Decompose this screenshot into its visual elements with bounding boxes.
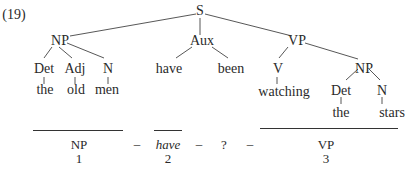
word-stars: stars xyxy=(379,106,405,120)
segment-vp-label: VP xyxy=(318,138,335,151)
separator-3: – xyxy=(247,137,254,150)
edge-np-adj xyxy=(59,47,72,58)
segment-vp-index: 3 xyxy=(323,152,330,165)
edge-np-det xyxy=(44,47,52,58)
bracket-line-np xyxy=(33,130,123,131)
edge-s-np xyxy=(70,14,196,36)
word-the-object: the xyxy=(332,106,349,120)
edge-vp-v xyxy=(279,47,288,58)
word-been: been xyxy=(218,62,244,76)
node-np-subject: NP xyxy=(51,34,69,48)
node-v: V xyxy=(273,62,283,76)
node-adj: Adj xyxy=(65,62,86,76)
node-s: S xyxy=(196,4,204,18)
node-np-object: NP xyxy=(355,62,373,76)
bracket-line-vp xyxy=(260,128,398,129)
node-n: N xyxy=(103,62,113,76)
edge-aux-have xyxy=(176,47,192,58)
example-number: (19) xyxy=(2,8,25,22)
edge-vp-np xyxy=(305,43,358,59)
word-watching: watching xyxy=(258,85,309,99)
segment-np-index: 1 xyxy=(76,152,83,165)
bracket-line-have xyxy=(154,130,182,131)
node-aux: Aux xyxy=(190,34,214,48)
separator-1: – xyxy=(134,137,141,150)
segment-np-label: NP xyxy=(71,138,88,151)
edge-np-n xyxy=(67,43,104,58)
separator-2: – xyxy=(196,137,203,150)
word-men: men xyxy=(95,83,119,97)
word-the: the xyxy=(36,83,53,97)
word-have: have xyxy=(156,62,182,76)
node-n-object: N xyxy=(377,84,387,98)
node-det: Det xyxy=(34,62,54,76)
segment-unknown-label: ? xyxy=(221,138,227,151)
node-det-object: Det xyxy=(331,84,351,98)
edge-s-vp xyxy=(205,14,292,36)
edge-aux-been xyxy=(212,47,228,58)
word-old: old xyxy=(67,83,85,97)
segment-have-index: 2 xyxy=(165,152,172,165)
segment-have-label: have xyxy=(156,138,181,151)
node-vp: VP xyxy=(288,34,306,48)
